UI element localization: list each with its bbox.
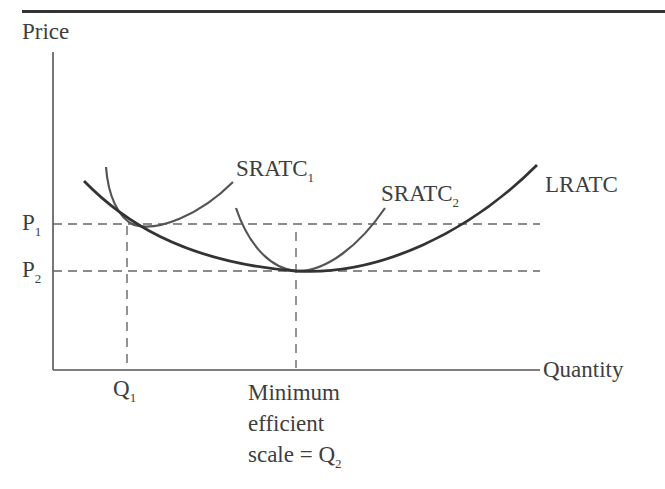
p1-label: P1: [22, 211, 41, 234]
p2-label-main: P: [22, 257, 35, 282]
q1-label-main: Q: [113, 376, 130, 401]
sratc2-label-main: SRATC: [381, 181, 453, 206]
sratc2-label: SRATC2: [381, 182, 459, 205]
price-axis-label: Price: [22, 20, 69, 43]
mes-line-3-text: scale = Q: [248, 442, 335, 467]
lratc-label: LRATC: [545, 173, 618, 196]
p1-label-sub: 1: [35, 224, 42, 239]
lratc-diagram: Price Quantity P1 P2 Q1 SRATC1 SRATC2 LR…: [0, 0, 665, 489]
p2-label: P2: [22, 258, 41, 281]
sratc1-label-main: SRATC: [236, 156, 308, 181]
quantity-axis-label: Quantity: [543, 358, 624, 381]
sratc2-curve: [236, 208, 385, 271]
p2-label-sub: 2: [35, 271, 42, 286]
mes-line-3-sub: 2: [335, 456, 342, 471]
mes-line-1: Minimum: [248, 377, 342, 408]
minimum-efficient-scale-label: Minimum efficient scale = Q2: [248, 377, 342, 470]
sratc1-curve: [106, 167, 233, 227]
mes-line-3: scale = Q2: [248, 439, 342, 470]
sratc2-label-sub: 2: [453, 195, 460, 210]
sratc1-label: SRATC1: [236, 157, 314, 180]
p1-label-main: P: [22, 210, 35, 235]
mes-line-2: efficient: [248, 408, 342, 439]
q1-label-sub: 1: [130, 390, 137, 405]
sratc1-label-sub: 1: [308, 170, 315, 185]
q1-label: Q1: [113, 377, 136, 400]
